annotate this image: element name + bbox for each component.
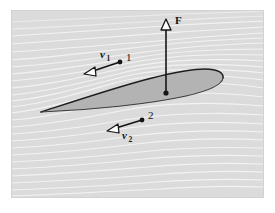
figure-root: F v 1 1 — [0, 0, 275, 213]
airfoil-lift-diagram: F v 1 1 — [0, 0, 275, 213]
paper-grain-overlay — [11, 10, 264, 198]
